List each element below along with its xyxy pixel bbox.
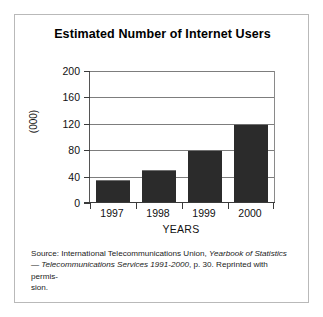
- chart-title: Estimated Number of Internet Users: [15, 27, 310, 41]
- bar-1998[interactable]: [142, 170, 176, 203]
- source-line2-dash: —: [31, 260, 41, 269]
- x-tick-label-1997: 1997: [89, 207, 135, 219]
- bar-1997[interactable]: [96, 180, 130, 203]
- x-tick-label-1999: 1999: [181, 207, 227, 219]
- source-line3: sion.: [31, 283, 48, 292]
- source-note: Source: International Telecommunications…: [31, 248, 297, 294]
- x-tick-label-2000: 2000: [227, 207, 273, 219]
- bars-layer: [90, 71, 274, 203]
- x-axis-label: YEARS: [89, 223, 273, 235]
- bar-1999[interactable]: [188, 150, 222, 203]
- y-axis-label: (000): [28, 102, 39, 142]
- y-tick-label-40: 40: [68, 171, 80, 183]
- figure-frame: Estimated Number of Internet Users (000)…: [14, 14, 309, 303]
- bar-slot-2000: [228, 71, 274, 203]
- x-tick-4: [273, 203, 274, 209]
- bar-slot-1997: [90, 71, 136, 203]
- y-tick-label-80: 80: [68, 144, 80, 156]
- y-tick-label-120: 120: [62, 118, 80, 130]
- plot-area: 200 160 120 80 40 0: [89, 71, 275, 203]
- bar-slot-1998: [136, 71, 182, 203]
- source-line2-italic: Telecommunications Services 1991-2000: [41, 260, 189, 269]
- y-tick-label-200: 200: [62, 65, 80, 77]
- source-line1-italic: Yearbook of Statistics: [209, 249, 287, 258]
- x-tick-labels: 1997 1998 1999 2000: [89, 207, 273, 219]
- source-line1-plain: Source: International Telecommunications…: [31, 249, 209, 258]
- bar-2000[interactable]: [234, 124, 268, 203]
- bar-slot-1999: [182, 71, 228, 203]
- y-tick-label-0: 0: [74, 197, 80, 209]
- y-tick-label-160: 160: [62, 91, 80, 103]
- x-tick-label-1998: 1998: [135, 207, 181, 219]
